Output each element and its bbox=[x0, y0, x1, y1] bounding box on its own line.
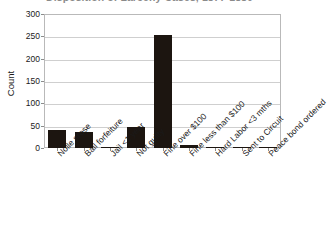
y-axis-tick-label: 150 bbox=[0, 77, 40, 86]
y-axis-tick-label: 50 bbox=[0, 121, 40, 130]
y-axis-tick-mark bbox=[41, 126, 44, 127]
y-axis-tick-mark bbox=[41, 81, 44, 82]
y-axis-tick-mark bbox=[41, 14, 44, 15]
chart-title: Disposition of Larceny Cases, 1877-1880 bbox=[46, 0, 276, 3]
y-axis-tick-label: 200 bbox=[0, 54, 40, 63]
y-axis-tick-mark bbox=[41, 36, 44, 37]
y-axis-tick-mark bbox=[41, 59, 44, 60]
y-axis-tick-label: 250 bbox=[0, 32, 40, 41]
x-axis-category-labels: Nolle proseBail forfeitureJail <1 yearNo… bbox=[0, 150, 323, 228]
y-axis-tick-labels: 300250200150100500 bbox=[0, 14, 40, 148]
y-axis-tick-label: 100 bbox=[0, 99, 40, 108]
y-axis-tick-mark bbox=[41, 148, 44, 149]
y-axis-tick-label: 300 bbox=[0, 10, 40, 19]
y-axis-tick-mark bbox=[41, 103, 44, 104]
